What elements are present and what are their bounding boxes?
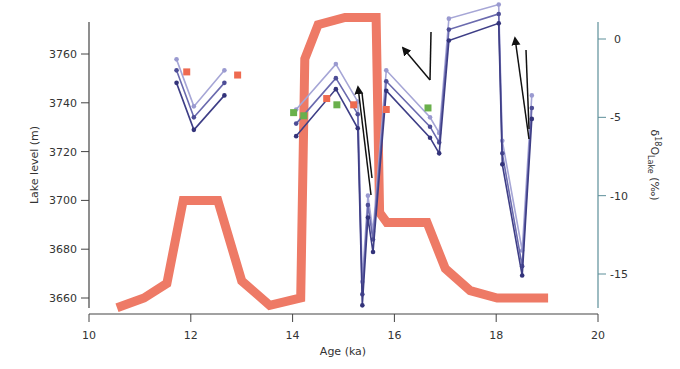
model-d18o-point bbox=[447, 16, 452, 21]
model-d18o-point bbox=[174, 57, 179, 62]
model-d18o-point bbox=[192, 104, 197, 109]
line-annotation bbox=[430, 32, 431, 80]
model-d18o-point bbox=[360, 303, 365, 308]
right-axis-title-main: O bbox=[648, 146, 661, 155]
model-d18o-point bbox=[496, 12, 501, 17]
model-d18o-point bbox=[384, 88, 389, 93]
model-d18o-point bbox=[192, 128, 197, 133]
right-axis-title: δ18OLake (‰) bbox=[646, 129, 662, 200]
right-axis-ticks: 0-5-10-15 bbox=[598, 33, 628, 281]
model-d18o-point bbox=[366, 215, 371, 220]
left-tick-label: 3680 bbox=[49, 243, 77, 256]
right-tick-label: -15 bbox=[610, 268, 628, 281]
model-d18o-point bbox=[447, 27, 452, 32]
model-d18o-point bbox=[355, 112, 360, 117]
x-tick-label: 20 bbox=[591, 329, 605, 342]
observed-red-square bbox=[183, 68, 190, 75]
x-axis-title: Age (ka) bbox=[320, 345, 366, 358]
model-d18o-point bbox=[222, 93, 227, 98]
x-tick-label: 16 bbox=[387, 329, 401, 342]
left-axis-ticks: 366036803700372037403760 bbox=[49, 48, 89, 305]
left-axis-title: Lake level (m) bbox=[28, 126, 41, 204]
right-tick-label: -5 bbox=[610, 111, 621, 124]
observed-green-square bbox=[290, 109, 297, 116]
arrow-annotation bbox=[403, 48, 430, 80]
left-tick-label: 3740 bbox=[49, 97, 77, 110]
observed-red-square bbox=[234, 72, 241, 79]
model-d18o-line bbox=[296, 14, 532, 295]
model-d18o-point bbox=[355, 126, 360, 131]
x-tick-label: 12 bbox=[184, 329, 198, 342]
model-d18o-point bbox=[384, 68, 389, 73]
model-d18o-point bbox=[334, 87, 339, 92]
model-d18o-point bbox=[366, 203, 371, 208]
chart: 101214161820 366036803700372037403760 0-… bbox=[0, 0, 680, 369]
x-axis-ticks: 101214161820 bbox=[82, 314, 605, 342]
model-d18o-point bbox=[496, 2, 501, 7]
left-tick-label: 3760 bbox=[49, 48, 77, 61]
right-tick-label: 0 bbox=[614, 33, 621, 46]
left-tick-label: 3720 bbox=[49, 146, 77, 159]
right-axis-title-sub: Lake bbox=[646, 155, 655, 174]
observed-red-square bbox=[383, 106, 390, 113]
x-tick-label: 14 bbox=[286, 329, 300, 342]
model-d18o-point bbox=[174, 68, 179, 73]
model-d18o-point bbox=[500, 162, 505, 167]
model-d18o-point bbox=[428, 115, 433, 120]
model-d18o-line bbox=[296, 23, 532, 305]
model-d18o-point bbox=[174, 81, 179, 86]
model-d18o-point bbox=[428, 135, 433, 140]
model-d18o-point bbox=[371, 250, 376, 255]
left-tick-label: 3660 bbox=[49, 292, 77, 305]
model-d18o-point bbox=[222, 68, 227, 73]
lake-level-line bbox=[117, 17, 548, 307]
observed-red-square bbox=[350, 101, 357, 108]
plot-area bbox=[117, 2, 548, 308]
model-d18o-line bbox=[177, 59, 225, 106]
model-d18o-point bbox=[384, 79, 389, 84]
model-d18o-point bbox=[222, 81, 227, 86]
x-tick-label: 10 bbox=[82, 329, 96, 342]
model-d18o-point bbox=[530, 117, 535, 122]
right-axis-title-unit: (‰) bbox=[648, 174, 661, 201]
x-tick-label: 18 bbox=[489, 329, 503, 342]
observed-red-square bbox=[323, 95, 330, 102]
observed-green-square bbox=[300, 112, 307, 119]
left-tick-label: 3700 bbox=[49, 194, 77, 207]
model-d18o-point bbox=[334, 62, 339, 67]
model-d18o-point bbox=[520, 273, 525, 278]
observed-green-square bbox=[424, 104, 431, 111]
model-d18o-point bbox=[530, 93, 535, 98]
right-axis-title-sup: 18 bbox=[653, 136, 662, 146]
model-d18o-line bbox=[296, 5, 532, 282]
model-d18o-point bbox=[334, 76, 339, 81]
model-d18o-point bbox=[447, 38, 452, 43]
model-d18o-point bbox=[192, 115, 197, 120]
model-d18o-point bbox=[437, 151, 442, 156]
model-d18o-point bbox=[428, 124, 433, 129]
observed-green-square bbox=[333, 101, 340, 108]
model-d18o-point bbox=[530, 106, 535, 111]
model-d18o-point bbox=[294, 121, 299, 126]
model-d18o-point bbox=[366, 193, 371, 198]
model-d18o-point bbox=[294, 134, 299, 139]
right-tick-label: -10 bbox=[610, 190, 628, 203]
model-d18o-point bbox=[496, 21, 501, 26]
